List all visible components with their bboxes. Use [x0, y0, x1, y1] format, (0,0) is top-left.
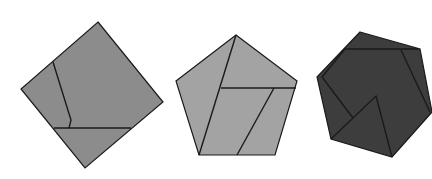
square-outline: [21, 22, 163, 168]
dissection-diagram: [0, 0, 432, 179]
hexagon-shape: [317, 32, 432, 157]
hexagon-outline: [317, 32, 432, 157]
pentagon-outline: [176, 35, 297, 155]
pentagon-shape: [176, 35, 297, 155]
square-shape: [21, 22, 163, 168]
